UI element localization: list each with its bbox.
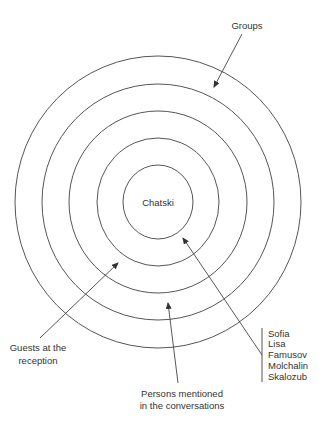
center-label: Chatski (142, 197, 174, 208)
member-name: Lisa (268, 338, 286, 349)
member-name: Molchalin (268, 360, 308, 371)
guests-label-line2: reception (18, 355, 57, 366)
concentric-circles-diagram: Chatski Groups Guests at the reception P… (0, 0, 322, 427)
groups-arrow (214, 34, 242, 87)
member-name: Sofia (268, 328, 290, 339)
persons-arrow (168, 303, 178, 383)
members-arrow (183, 238, 262, 355)
member-name: Skalozub (268, 371, 307, 382)
guests-label-line1: Guests at the (10, 342, 67, 353)
persons-label-line1: Persons mentioned (141, 388, 223, 399)
groups-label: Groups (231, 20, 262, 31)
member-name: Famusov (268, 349, 307, 360)
members-list: Sofia Lisa Famusov Molchalin Skalozub (268, 328, 308, 382)
persons-label-line2: in the conversations (140, 400, 225, 411)
guests-arrow (40, 263, 118, 338)
